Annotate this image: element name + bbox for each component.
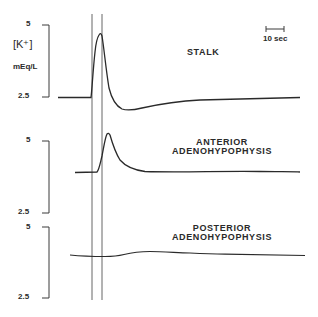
y-tick-2.5-stalk: 2.5 bbox=[18, 91, 29, 100]
chart-canvas bbox=[0, 0, 318, 317]
trace-posterior bbox=[70, 252, 305, 257]
y-tick-5-posterior: 5 bbox=[26, 222, 30, 231]
y-tick-5-anterior: 5 bbox=[26, 135, 30, 144]
y-axis-bracket-anterior bbox=[42, 141, 49, 213]
time-scale-label: 10 sec bbox=[263, 34, 287, 43]
y-axis-bracket-posterior bbox=[42, 227, 49, 298]
y-axis-unit: mEq/L bbox=[13, 62, 37, 71]
y-axis-label-potassium: [K⁺] bbox=[13, 38, 32, 51]
panel-title-anterior: ANTERIOR ADENOHYPOPHYSIS bbox=[168, 138, 276, 156]
y-tick-5-stalk: 5 bbox=[26, 19, 30, 28]
y-tick-2.5-anterior: 2.5 bbox=[18, 207, 29, 216]
panel-title-posterior-line2: ADENOHYPOPHYSIS bbox=[168, 233, 276, 242]
figure: 5 2.5 [K⁺] mEq/L STALK 5 2.5 ANTERIOR AD… bbox=[0, 0, 318, 317]
trace-stalk bbox=[58, 34, 300, 110]
panel-title-posterior: POSTERIOR ADENOHYPOPHYSIS bbox=[168, 224, 276, 242]
time-scale-bar bbox=[266, 26, 284, 32]
panel-title-stalk: STALK bbox=[187, 48, 219, 57]
panel-title-anterior-line2: ADENOHYPOPHYSIS bbox=[168, 147, 276, 156]
y-tick-2.5-posterior: 2.5 bbox=[18, 292, 29, 301]
y-axis-bracket-stalk bbox=[42, 25, 49, 97]
